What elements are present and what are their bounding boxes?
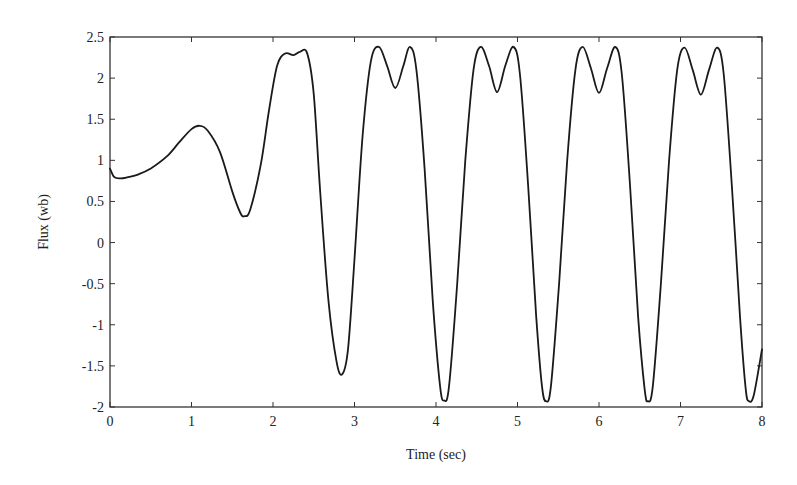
y-tick-label: 1.5 [87,112,105,127]
y-tick-label: 0 [97,236,104,251]
x-tick-label: 1 [188,414,195,429]
y-tick-label: 0.5 [87,194,105,209]
y-tick-label: -1.5 [82,359,104,374]
flux-series-line [110,47,762,402]
x-axis-ticks: 012345678 [107,37,766,429]
x-tick-label: 6 [596,414,603,429]
y-tick-label: 2 [97,71,104,86]
x-axis-label: Time (sec) [406,447,466,463]
y-axis-ticks: 2.521.510.50-0.5-1-1.5-2 [82,30,762,415]
x-tick-label: 5 [514,414,521,429]
x-tick-label: 7 [677,414,684,429]
y-tick-label: -0.5 [82,277,104,292]
y-tick-label: -1 [92,318,104,333]
y-tick-label: -2 [92,400,104,415]
y-tick-label: 1 [97,153,104,168]
x-tick-label: 3 [351,414,358,429]
y-axis-label: Flux (wb) [36,194,52,250]
y-tick-label: 2.5 [87,30,105,45]
x-tick-label: 0 [107,414,114,429]
x-tick-label: 4 [433,414,440,429]
x-tick-label: 2 [270,414,277,429]
flux-chart: 012345678 2.521.510.50-0.5-1-1.5-2 Time … [0,0,797,485]
x-tick-label: 8 [759,414,766,429]
